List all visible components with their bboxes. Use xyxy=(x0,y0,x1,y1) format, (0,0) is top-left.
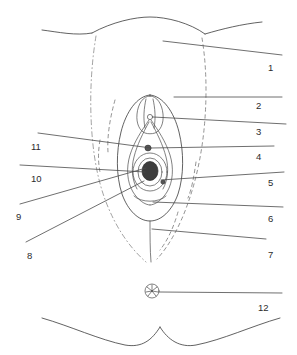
fourchette xyxy=(134,196,166,201)
callout-label-9: 9 xyxy=(16,212,21,222)
callout-label-8: 8 xyxy=(27,251,32,261)
callout-label-12: 12 xyxy=(258,303,269,313)
leader-line-11 xyxy=(38,133,151,148)
inner-fold-left-dashed xyxy=(108,100,115,152)
glans-clitoris xyxy=(147,114,152,119)
bartholin-gland-right xyxy=(161,180,165,184)
leader-line-12 xyxy=(159,292,282,293)
callout-label-1: 1 xyxy=(268,63,273,73)
thigh-fold-left xyxy=(42,318,160,346)
callout-label-4: 4 xyxy=(256,152,261,162)
mons-pubis-arc xyxy=(92,17,205,34)
clitoral-hood xyxy=(137,96,163,134)
labia-majora-right-dashed xyxy=(157,38,206,259)
clitoral-hood-crease xyxy=(144,99,146,128)
diagram-canvas xyxy=(0,0,297,355)
callout-label-10: 10 xyxy=(31,174,42,184)
perineum xyxy=(150,221,151,262)
callout-label-11: 11 xyxy=(31,142,41,152)
anatomical-diagram-figure: 1 2 3 4 5 6 7 12 11 10 9 8 xyxy=(0,0,297,355)
leader-line-1 xyxy=(163,41,282,55)
callout-label-2: 2 xyxy=(256,101,261,111)
groin-fold-right xyxy=(205,22,262,34)
leader-line-7 xyxy=(152,229,266,239)
callout-label-7: 7 xyxy=(268,250,273,260)
leader-line-3 xyxy=(153,117,286,124)
leader-line-8 xyxy=(26,181,144,242)
callout-label-6: 6 xyxy=(268,214,273,224)
leader-line-5 xyxy=(161,172,284,180)
vaginal-opening xyxy=(142,162,158,181)
leader-line-4 xyxy=(151,146,274,148)
groin-fold-left xyxy=(42,30,92,34)
callout-label-5: 5 xyxy=(268,178,273,188)
leader-line-10 xyxy=(20,165,145,172)
anus-folds-icon xyxy=(146,285,158,296)
inner-fold-left-dashed-2 xyxy=(99,140,101,172)
thigh-fold-right xyxy=(160,318,280,346)
callout-label-3: 3 xyxy=(256,127,261,137)
